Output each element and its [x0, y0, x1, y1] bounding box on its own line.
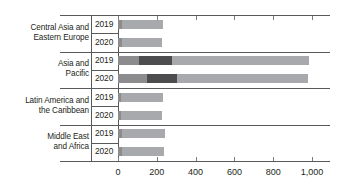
x-axis-tick-label: 400: [188, 167, 203, 177]
axis-rule-horizontal: [60, 52, 330, 53]
x-axis-tick-label: 600: [227, 167, 242, 177]
category-label: Asia andPacific: [2, 59, 89, 79]
bar-segment: [177, 74, 308, 83]
axis-tick-bottom: [196, 157, 197, 161]
axis-tick-bottom: [157, 157, 158, 161]
year-label: 2019: [95, 129, 113, 138]
category-label-line-1: Asia and: [2, 59, 89, 69]
axis-tick-bottom: [234, 157, 235, 161]
axis-tick-bottom: [273, 157, 274, 161]
bar-stack: [118, 20, 163, 29]
bar-stack: [118, 129, 165, 138]
plot-area: 02004006008001,000Central Asia andEaster…: [0, 0, 339, 188]
x-axis-tick-label: 1,000: [301, 167, 324, 177]
axis-tick-bottom: [118, 157, 119, 161]
bar-segment: [118, 74, 147, 83]
axis-tick-top: [234, 16, 235, 20]
category-label-line-1: Latin America and: [2, 96, 89, 106]
bar-segment: [147, 74, 177, 83]
category-label-line-2: and Africa: [2, 142, 89, 152]
category-label-line-2: Eastern Europe: [2, 33, 89, 43]
bar-segment: [122, 129, 164, 138]
year-label: 2020: [95, 147, 113, 156]
axis-rule-horizontal: [60, 161, 330, 162]
group-inner-rule: [91, 70, 118, 71]
category-label-line-1: Central Asia and: [2, 23, 89, 33]
category-label-line-1: Middle East: [2, 132, 89, 142]
group-inner-rule: [91, 33, 118, 34]
axis-tick-top: [273, 16, 274, 20]
bar-segment: [121, 93, 163, 102]
axis-rule-horizontal: [60, 125, 330, 126]
bar-segment: [122, 38, 162, 47]
bar-segment: [122, 20, 163, 29]
x-axis-tick-label: 800: [266, 167, 281, 177]
axis-rule-horizontal: [60, 88, 330, 89]
category-label-line-2: Pacific: [2, 69, 89, 79]
x-axis-tick-label: 0: [115, 167, 120, 177]
year-label: 2020: [95, 38, 113, 47]
bar-segment: [139, 56, 172, 65]
year-label: 2019: [95, 20, 113, 29]
bar-stack: [118, 38, 162, 47]
bar-segment: [172, 56, 309, 65]
year-label: 2020: [95, 111, 113, 120]
axis-rule-horizontal: [60, 15, 330, 16]
group-inner-rule: [91, 106, 118, 107]
axis-tick-bottom: [312, 157, 313, 161]
group-inner-rule: [91, 143, 118, 144]
year-label: 2019: [95, 93, 113, 102]
axis-tick-top: [196, 16, 197, 20]
category-label-line-2: the Caribbean: [2, 106, 89, 116]
bar-chart: 02004006008001,000Central Asia andEaster…: [0, 0, 339, 188]
category-label: Latin America andthe Caribbean: [2, 96, 89, 116]
bar-segment: [118, 56, 139, 65]
bar-stack: [118, 111, 162, 120]
bar-segment: [121, 111, 162, 120]
year-label: 2020: [95, 74, 113, 83]
category-label: Middle Eastand Africa: [2, 132, 89, 152]
bar-segment: [122, 147, 164, 156]
x-axis-tick-label: 200: [149, 167, 164, 177]
bar-stack: [118, 147, 164, 156]
axis-tick-top: [312, 16, 313, 20]
year-label: 2019: [95, 56, 113, 65]
category-label: Central Asia andEastern Europe: [2, 23, 89, 43]
bar-stack: [118, 74, 308, 83]
bar-stack: [118, 93, 163, 102]
bar-stack: [118, 56, 309, 65]
axis-divider-vertical: [91, 15, 92, 161]
